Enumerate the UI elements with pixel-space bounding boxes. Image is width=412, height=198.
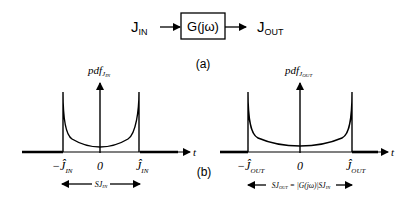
- input-label: JIN: [131, 18, 148, 37]
- output-label: JOUT: [257, 18, 284, 37]
- pos-peak-tick: ĴOUT: [346, 159, 366, 175]
- x-axis-label: t: [193, 146, 197, 158]
- diagram-canvas: JIN G(jω) JOUT (a) pdfJIN t −ĴIN 0 ĴIN S…: [0, 0, 412, 198]
- span-equation: SJOUT = |G(jω)|SJIN: [272, 181, 331, 190]
- x-axis-label: t: [391, 146, 395, 158]
- pos-peak-tick: ĴIN: [136, 159, 149, 175]
- zero-tick: 0: [297, 159, 303, 173]
- span-label: SJIN: [95, 180, 108, 189]
- y-axis-label: pdfJOUT: [284, 64, 313, 78]
- block-label: G(jω): [187, 19, 219, 34]
- right-pdf-plot: pdfJOUT t −ĴOUT 0 ĴOUT SJOUT = |G(jω)|SJ…: [220, 64, 395, 190]
- arcsine-pdf-curve: [63, 92, 139, 152]
- caption-a: (a): [196, 57, 211, 71]
- block-diagram: JIN G(jω) JOUT (a): [131, 13, 284, 71]
- zero-tick: 0: [97, 159, 103, 173]
- y-axis-label: pdfJIN: [87, 64, 111, 78]
- left-pdf-plot: pdfJIN t −ĴIN 0 ĴIN SJIN: [22, 64, 197, 189]
- neg-peak-tick: −ĴIN: [52, 159, 73, 175]
- caption-b: (b): [197, 165, 212, 179]
- neg-peak-tick: −ĴOUT: [237, 159, 266, 175]
